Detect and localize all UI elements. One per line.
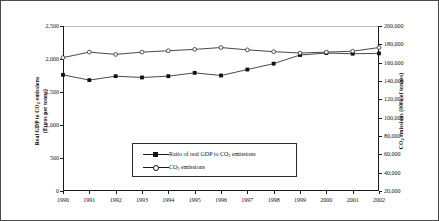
- left-tick-label: 0: [21, 188, 59, 194]
- right-tick-mark: [379, 136, 382, 137]
- right-tick-label: 20,000: [384, 188, 424, 194]
- right-tick-label: 40,000: [384, 170, 424, 176]
- legend-label-co2: CO2 emissions: [169, 164, 205, 172]
- filled-square-marker-icon: [143, 150, 169, 159]
- right-tick-mark: [379, 63, 382, 64]
- data-point-marker-square: [140, 76, 144, 80]
- x-tick-label: 1998: [260, 197, 288, 203]
- data-point-marker-circle: [61, 56, 65, 60]
- data-point-marker-square: [193, 71, 197, 75]
- left-tick-label: 2,500: [21, 23, 59, 29]
- data-point-marker-square: [87, 78, 91, 82]
- left-tick-label: 1,000: [21, 122, 59, 128]
- x-tick-label: 1996: [207, 197, 235, 203]
- x-tick-mark: [63, 191, 64, 194]
- data-point-marker-circle: [114, 53, 118, 57]
- x-tick-mark: [379, 191, 380, 194]
- x-tick-mark: [89, 191, 90, 194]
- data-point-marker-square: [272, 62, 276, 66]
- x-tick-mark: [195, 191, 196, 194]
- left-axis-title: Real GDP to CO2 emissions (Euros per ton…: [34, 76, 48, 144]
- data-point-marker-square: [166, 74, 170, 78]
- x-tick-label: 1992: [102, 197, 130, 203]
- legend-item-co2: CO2 emissions: [133, 161, 296, 174]
- right-tick-mark: [379, 44, 382, 45]
- chart-figure: Real GDP to CO2 emissions (Euros per ton…: [0, 0, 439, 221]
- data-point-marker-circle: [298, 51, 302, 55]
- x-tick-mark: [142, 191, 143, 194]
- data-point-marker-square: [114, 74, 118, 78]
- right-tick-mark: [379, 99, 382, 100]
- x-tick-mark: [221, 191, 222, 194]
- x-tick-label: 2001: [339, 197, 367, 203]
- data-point-marker-square: [377, 51, 381, 55]
- data-point-marker-circle: [166, 49, 170, 53]
- x-tick-mark: [274, 191, 275, 194]
- right-tick-mark: [379, 118, 382, 119]
- data-point-marker-circle: [245, 48, 249, 52]
- data-point-marker-circle: [351, 49, 355, 53]
- right-tick-label: 160,000: [384, 60, 424, 66]
- data-point-marker-circle: [193, 47, 197, 51]
- right-tick-label: 60,000: [384, 151, 424, 157]
- right-tick-label: 80,000: [384, 133, 424, 139]
- x-tick-mark: [247, 191, 248, 194]
- data-point-marker-circle: [219, 46, 223, 50]
- right-tick-label: 180,000: [384, 41, 424, 47]
- right-tick-mark: [379, 173, 382, 174]
- x-tick-mark: [300, 191, 301, 194]
- data-point-marker-circle: [87, 50, 91, 54]
- left-tick-label: 1,500: [21, 89, 59, 95]
- left-axis-title-line1: Real GDP to CO2 emissions: [34, 76, 40, 144]
- data-point-marker-circle: [272, 50, 276, 54]
- x-tick-mark: [168, 191, 169, 194]
- data-point-marker-square: [245, 68, 249, 72]
- x-tick-label: 1999: [286, 197, 314, 203]
- left-tick-label: 2,000: [21, 56, 59, 62]
- right-tick-mark: [379, 26, 382, 27]
- right-tick-label: 120,000: [384, 96, 424, 102]
- data-point-marker-square: [61, 73, 65, 77]
- open-circle-marker-icon: [143, 163, 169, 172]
- x-tick-label: 1994: [154, 197, 182, 203]
- x-tick-label: 1991: [75, 197, 103, 203]
- x-tick-label: 2002: [365, 197, 393, 203]
- data-point-marker-circle: [377, 46, 381, 50]
- chart-legend: Ratio of real GDP to CO2 emissions CO2 e…: [132, 143, 297, 177]
- x-tick-mark: [116, 191, 117, 194]
- legend-item-ratio: Ratio of real GDP to CO2 emissions: [133, 148, 296, 161]
- left-tick-label: 500: [21, 155, 59, 161]
- x-tick-label: 2000: [312, 197, 340, 203]
- data-point-marker-square: [219, 74, 223, 78]
- right-tick-label: 100,000: [384, 115, 424, 121]
- x-tick-label: 1993: [128, 197, 156, 203]
- right-tick-label: 200,000: [384, 23, 424, 29]
- x-tick-label: 1995: [181, 197, 209, 203]
- right-tick-label: 140,000: [384, 78, 424, 84]
- right-tick-mark: [379, 81, 382, 82]
- x-tick-mark: [353, 191, 354, 194]
- x-tick-mark: [326, 191, 327, 194]
- data-point-marker-circle: [324, 50, 328, 54]
- x-tick-label: 1990: [49, 197, 77, 203]
- data-point-marker-circle: [140, 50, 144, 54]
- x-tick-label: 1997: [233, 197, 261, 203]
- right-tick-mark: [379, 154, 382, 155]
- legend-label-ratio: Ratio of real GDP to CO2 emissions: [169, 151, 256, 159]
